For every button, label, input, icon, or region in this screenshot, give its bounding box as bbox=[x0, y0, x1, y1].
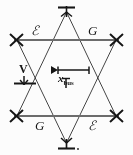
vertical-dimension-label: V bbox=[19, 63, 28, 75]
region-label-bottom-left: G bbox=[35, 119, 44, 132]
hexagram-figure: ℰ G G ℰ V xbus bbox=[0, 0, 133, 155]
region-label-top-left: ℰ bbox=[31, 24, 39, 37]
horizontal-dimension-subscript: bus bbox=[64, 79, 74, 87]
region-label-bottom-right: ℰ bbox=[88, 119, 96, 132]
downward-triangle bbox=[17, 40, 116, 143]
horizontal-dimension-label: xbus bbox=[58, 73, 73, 87]
vertical-dimension-indicator bbox=[14, 76, 36, 85]
top-vertex-marker bbox=[58, 6, 75, 17]
region-label-top-right: G bbox=[88, 24, 97, 37]
